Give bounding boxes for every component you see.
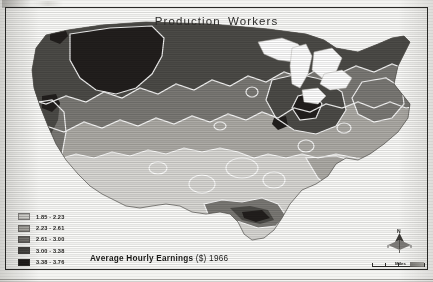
legend-item: 2.61 - 3.00: [18, 234, 64, 245]
legend-swatch-2: [18, 225, 30, 232]
map-caption: Average Hourly Earnings ($) 1966: [90, 254, 228, 263]
map-title: Production Workers: [6, 15, 427, 27]
legend-item: 2.23 - 2.61: [18, 222, 64, 233]
scale-bar-unit-label: Miles: [395, 261, 406, 266]
usa-contour-surface: [6, 8, 427, 269]
scanned-page: Production Workers 1.85 - 2.23 2.23 - 2.…: [0, 0, 433, 282]
legend-label-1: 1.85 - 2.23: [36, 214, 64, 220]
page-edge-line: [0, 279, 433, 280]
scale-tick: [424, 263, 425, 268]
legend-swatch-4: [18, 247, 30, 254]
north-arrow-icon: [384, 229, 418, 255]
legend-label-4: 3.00 - 3.38: [36, 248, 64, 254]
legend-label-2: 2.23 - 2.61: [36, 225, 64, 231]
map-legend: 1.85 - 2.23 2.23 - 2.61 2.61 - 3.00 3.00…: [18, 211, 64, 268]
map-plate-frame: Production Workers 1.85 - 2.23 2.23 - 2.…: [5, 7, 428, 270]
scale-tick: [372, 263, 373, 268]
north-arrow-label: N: [397, 228, 401, 234]
north-arrow: N: [384, 229, 418, 255]
legend-swatch-5: [18, 259, 30, 266]
scale-bar-scan-smudge: [410, 262, 424, 267]
scale-bar: Miles: [372, 260, 427, 269]
caption-bold-part: Average Hourly Earnings: [90, 254, 193, 263]
legend-swatch-3: [18, 236, 30, 243]
map-canvas: Production Workers 1.85 - 2.23 2.23 - 2.…: [6, 8, 427, 269]
scan-artifact-smudge-2: [33, 1, 63, 6]
scale-tick: [385, 263, 386, 268]
legend-item: 3.38 - 3.76: [18, 257, 64, 268]
legend-label-3: 2.61 - 3.00: [36, 236, 64, 242]
legend-item: 1.85 - 2.23: [18, 211, 64, 222]
contour-class-layers: [6, 8, 427, 269]
legend-swatch-1: [18, 213, 30, 220]
choropleth-map: [6, 8, 427, 269]
legend-item: 3.00 - 3.38: [18, 245, 64, 256]
caption-rest-part: ($) 1966: [196, 254, 229, 263]
legend-label-5: 3.38 - 3.76: [36, 259, 64, 265]
